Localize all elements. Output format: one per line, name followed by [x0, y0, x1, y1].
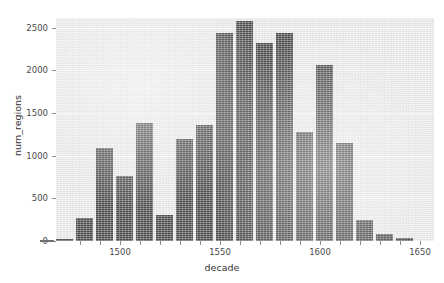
x-tick-mark [360, 241, 361, 245]
x-tick-mark [340, 241, 341, 245]
x-tick-mark [140, 241, 141, 245]
bar [116, 176, 133, 241]
y-tick-mark [52, 113, 56, 114]
y-tick-label: 2000 [0, 65, 48, 75]
x-tick-mark [240, 241, 241, 245]
x-axis-title: decade [0, 262, 444, 273]
bar [96, 148, 113, 241]
x-tick-mark [400, 241, 401, 245]
y-axis-title: num_regions [12, 71, 23, 181]
x-tick-mark [300, 241, 301, 245]
y-tick-label: 2500 [0, 23, 48, 33]
bar [136, 123, 153, 241]
x-tick-mark [220, 241, 221, 245]
x-tick-label: 1650 [400, 247, 440, 257]
y-tick-mark [52, 156, 56, 157]
x-tick-mark [420, 241, 421, 245]
y-tick-mark [52, 198, 56, 199]
x-tick-mark [120, 241, 121, 245]
x-tick-mark [280, 241, 281, 245]
bar [156, 215, 173, 241]
bar [236, 21, 253, 241]
x-tick-mark [260, 241, 261, 245]
x-tick-mark [160, 241, 161, 245]
bar [296, 132, 313, 241]
y-tick-mark [52, 28, 56, 29]
x-tick-mark [200, 241, 201, 245]
bar [376, 234, 393, 241]
bar [196, 125, 213, 241]
bar [56, 239, 73, 241]
x-tick-mark [180, 241, 181, 245]
bar [356, 220, 373, 241]
x-tick-mark [80, 241, 81, 245]
bar [276, 33, 293, 241]
x-tick-label: 1500 [100, 247, 140, 257]
bar [216, 33, 233, 241]
bar [256, 43, 273, 241]
bar-chart: 05001000150020002500 1500155016001650 nu… [0, 0, 444, 283]
bar [396, 238, 413, 241]
y-tick-label: 1500 [0, 108, 48, 118]
x-tick-label: 1550 [200, 247, 240, 257]
x-tick-label: 1600 [300, 247, 340, 257]
y-tick-label: 500 [0, 193, 48, 203]
bar [76, 218, 93, 241]
x-tick-mark [320, 241, 321, 245]
zero-baseline-stub [40, 240, 54, 242]
plot-area [56, 18, 434, 241]
x-tick-mark [100, 241, 101, 245]
bar [336, 143, 353, 241]
x-tick-mark [380, 241, 381, 245]
bar [316, 65, 333, 241]
bar [176, 139, 193, 241]
y-tick-mark [52, 70, 56, 71]
y-tick-label: 1000 [0, 151, 48, 161]
